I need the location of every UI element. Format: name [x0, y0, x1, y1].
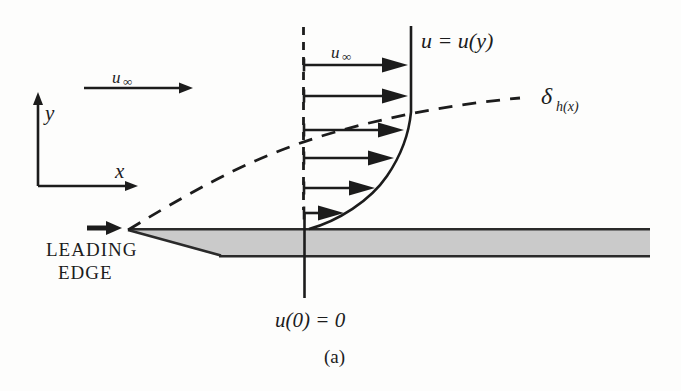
- leading-edge-label-line2: EDGE: [58, 262, 113, 283]
- y-axis-arrowhead-icon: [33, 92, 43, 105]
- velocity-arrowhead-icon: [382, 58, 408, 73]
- diagram-canvas: y x u ∞ LEADING EDGE δ h(x): [0, 0, 681, 391]
- free-stream-arrow: u ∞: [84, 68, 193, 94]
- boundary-layer-figure: y x u ∞ LEADING EDGE δ h(x): [0, 0, 681, 391]
- velocity-arrow: [304, 181, 375, 196]
- velocity-arrowhead-icon: [382, 89, 408, 104]
- leading-edge-arrowhead-icon: [106, 221, 122, 235]
- leading-edge-pointer: [87, 221, 122, 235]
- x-axis-arrowhead-icon: [125, 181, 138, 191]
- velocity-arrow: [304, 123, 404, 138]
- coordinate-axes: y x: [33, 92, 138, 191]
- velocity-arrow: [304, 58, 408, 73]
- free-stream-label-subscript: ∞: [123, 74, 132, 89]
- velocity-profile-equation: u = u(y): [421, 28, 493, 53]
- profile-free-stream-label: u: [331, 43, 340, 62]
- profile-arrows: [304, 58, 408, 221]
- free-stream-label: u: [112, 68, 121, 87]
- velocity-profile-curve: [309, 26, 411, 229]
- leading-edge-label-line1: LEADING: [46, 239, 137, 260]
- velocity-arrowhead-icon: [378, 123, 404, 138]
- velocity-arrow: [304, 89, 408, 104]
- boundary-layer-label-subscript: h(x): [556, 99, 579, 115]
- profile-free-stream-label-subscript: ∞: [342, 49, 351, 64]
- x-axis-label: x: [114, 159, 125, 183]
- boundary-layer-label: δ: [541, 83, 553, 109]
- velocity-arrowhead-icon: [368, 151, 394, 166]
- velocity-arrow: [304, 151, 394, 166]
- velocity-profile: u ∞ u = u(y) u(0) = 0: [275, 26, 493, 332]
- velocity-arrowhead-icon: [318, 206, 344, 221]
- y-axis-label: y: [43, 101, 55, 125]
- figure-caption: (a): [324, 346, 345, 368]
- free-stream-arrowhead-icon: [179, 83, 193, 94]
- no-slip-label: u(0) = 0: [275, 308, 346, 332]
- flat-plate: [128, 229, 650, 256]
